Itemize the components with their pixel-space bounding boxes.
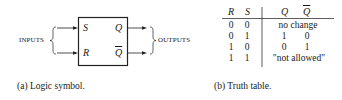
cell-qbar: 0 (303, 31, 311, 41)
cell-r: 0 (227, 20, 235, 30)
cell-q-merged: no change (266, 20, 330, 30)
truth-table-caption: (b) Truth table. (214, 81, 271, 91)
cell-s: 0 (243, 20, 251, 30)
outputs-label: OUTPUTS (158, 36, 190, 44)
cell-s: 0 (243, 42, 251, 52)
s-arrow-icon (73, 26, 78, 29)
cell-q-merged: "not allowed" (264, 53, 334, 63)
pin-r-label: R (83, 47, 89, 58)
header-r: R (228, 6, 234, 17)
cell-q: 0 (280, 42, 288, 52)
cell-r: 1 (227, 42, 235, 52)
header-qbar: Q (303, 6, 310, 17)
pin-q-label: Q (115, 22, 122, 33)
header-q: Q (281, 6, 288, 17)
logic-symbol-caption: (a) Logic symbol. (17, 81, 85, 91)
inputs-label: INPUTS (19, 36, 44, 44)
cell-q: 1 (280, 31, 288, 41)
qbar-arrow-icon (142, 51, 147, 54)
outputs-brace-icon (150, 27, 156, 54)
cell-s: 1 (243, 31, 251, 41)
r-arrow-icon (73, 51, 78, 54)
cell-qbar: 1 (303, 42, 311, 52)
pin-qbar-label: Q (115, 47, 122, 58)
cell-r: 1 (227, 53, 235, 63)
pin-s-label: S (83, 22, 88, 33)
header-s: S (245, 6, 250, 17)
cell-r: 0 (227, 31, 235, 41)
inputs-brace-icon (50, 27, 56, 54)
q-arrow-icon (142, 26, 147, 29)
cell-s: 1 (243, 53, 251, 63)
